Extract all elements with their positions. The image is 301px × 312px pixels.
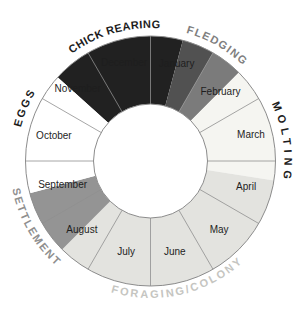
month-label-june: June (164, 246, 186, 257)
month-label-october: October (36, 130, 72, 141)
month-label-september: September (38, 179, 88, 190)
month-label-december: December (101, 57, 148, 68)
month-label-april: April (236, 181, 256, 192)
figure-container: JanuaryFebruaryMarchAprilMayJuneJulyAugu… (0, 0, 301, 312)
month-label-may: May (210, 224, 229, 235)
month-label-march: March (237, 129, 265, 140)
month-label-january: January (159, 58, 195, 69)
annual-cycle-diagram: JanuaryFebruaryMarchAprilMayJuneJulyAugu… (0, 0, 301, 312)
month-label-november: November (55, 83, 102, 94)
ring-inner-outline (94, 104, 208, 218)
month-label-august: August (66, 224, 97, 235)
month-label-february: February (200, 86, 240, 97)
month-label-july: July (117, 246, 135, 257)
